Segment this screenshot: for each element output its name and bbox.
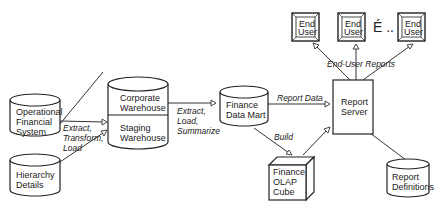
node-finance-data-mart: Finance Data Mart [220,86,268,126]
node-corporate-warehouse: Corporate Warehouse [120,93,166,113]
svg-text:Staging: Staging [120,123,151,133]
node-report-server: Report Server [333,80,373,134]
edge-operational-to-warehouse [60,121,104,122]
svg-text:Finance: Finance [273,167,305,177]
svg-text:Transform,: Transform, [63,133,103,143]
svg-text:Report: Report [341,97,369,107]
arrow-head-icon [286,150,292,155]
node-end-user-1: End User [292,13,319,41]
edge-olap-to-server [303,130,327,155]
svg-text:Load: Load [63,143,82,153]
svg-text:User: User [298,27,317,37]
edge-definitions-to-server [370,133,406,160]
svg-text:Load,: Load, [177,116,198,126]
edge-label-extract-transform-load: Extract, Transform, Load [63,123,103,153]
node-end-user-2: End User [338,13,365,41]
label: Financial [16,117,52,127]
label: Operational [16,107,63,117]
ellipsis-more-users: É .. [373,19,394,35]
svg-text:Report: Report [392,172,420,182]
arrow-head-icon [353,44,359,49]
arrow-head-icon [211,100,216,106]
node-end-user-3: End User [398,13,425,41]
label: Details [16,180,44,190]
edge-label-report-data: Report Data [277,93,323,103]
svg-text:Cube: Cube [273,187,295,197]
svg-text:Data Mart: Data Mart [226,110,266,120]
label: Hierarchy [16,170,55,180]
edge-label-extract-load-summarize: Extract, Load, Summarize [177,106,220,136]
arrow-head-icon [102,119,107,125]
label: System [16,127,46,137]
svg-text:Summarize: Summarize [177,126,220,136]
svg-text:Definitions: Definitions [392,182,435,192]
svg-text:Extract,: Extract, [63,123,92,133]
node-finance-olap-cube: Finance OLAP Cube [269,157,314,200]
svg-text:Extract,: Extract, [177,106,206,116]
node-warehouse: Corporate Warehouse Staging Warehouse [108,77,168,149]
node-operational-financial-system: Operational Financial System [10,94,63,137]
svg-text:Corporate: Corporate [120,93,160,103]
svg-text:User: User [404,27,423,37]
edge-label-end-user-reports: End-User Reports [327,59,396,69]
node-hierarchy-details: Hierarchy Details [10,154,60,196]
svg-text:Finance: Finance [226,100,258,110]
edge-label-build: Build [274,132,293,142]
svg-text:Server: Server [341,107,368,117]
architecture-diagram: Operational Financial System Hierarchy D… [0,0,441,209]
edge-operational-to-staging [60,72,103,124]
arrow-head-icon [407,44,413,49]
svg-text:OLAP: OLAP [273,177,297,187]
svg-text:User: User [344,27,363,37]
node-report-definitions: Report Definitions [387,159,435,197]
arrow-head-icon [325,101,330,107]
svg-text:Warehouse: Warehouse [120,103,166,113]
svg-text:Warehouse: Warehouse [120,133,166,143]
